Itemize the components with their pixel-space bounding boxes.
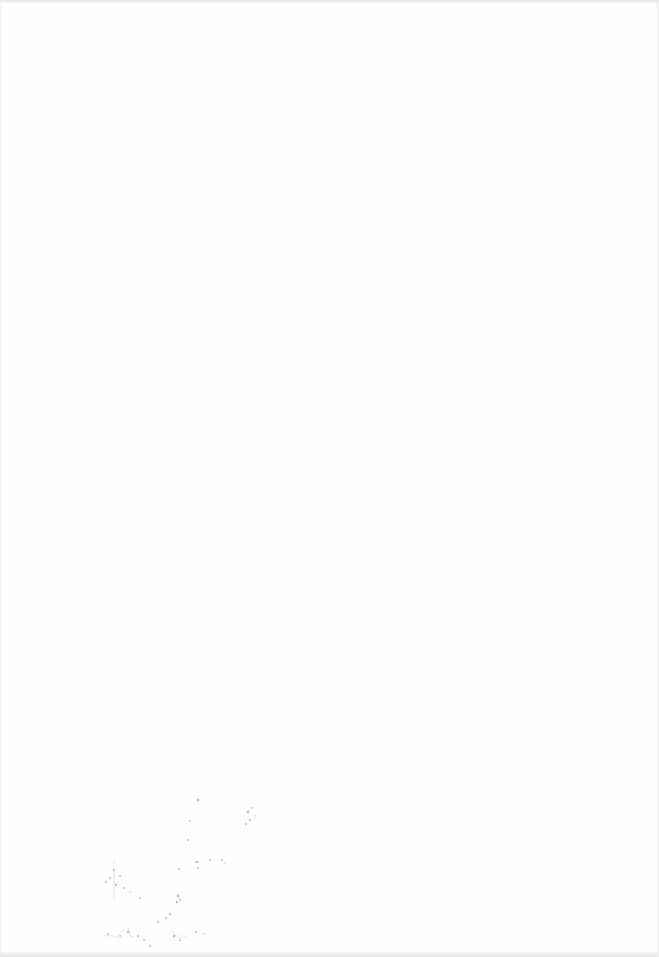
scan-edge-top: [0, 0, 659, 4]
scan-edge-bottom: [0, 951, 659, 957]
blank-page: [0, 0, 659, 957]
scan-edge-left: [0, 0, 2, 957]
speckle-marks: [100, 790, 270, 950]
scan-bleed-through-marks: [100, 790, 270, 950]
